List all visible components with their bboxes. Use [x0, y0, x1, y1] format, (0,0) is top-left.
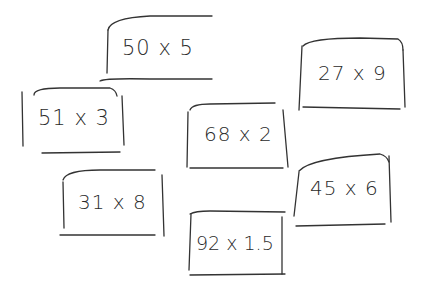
card-45x6: 45 x 6: [310, 176, 379, 200]
card-92x1.5: 92 x 1.5: [196, 232, 274, 254]
card-31x8: 31 x 8: [78, 190, 147, 214]
card-68x2: 68 x 2: [204, 122, 273, 146]
card-27x9: 27 x 9: [318, 61, 387, 85]
card-51x3: 51 x 3: [38, 106, 110, 130]
card-50x5: 50 x 5: [122, 36, 194, 60]
